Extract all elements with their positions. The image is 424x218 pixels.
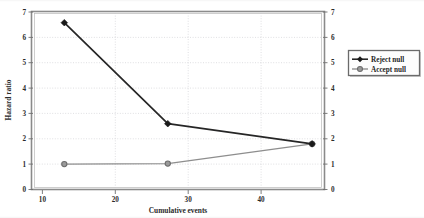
legend-label-accept-null: Accept null [371,66,406,74]
circle-marker-icon [358,67,363,72]
vertical-gridlines [115,13,261,188]
tick-label-x-10: 10 [39,196,47,204]
tick-label-left-1: 1 [22,161,26,169]
tick-label-right-6: 6 [331,34,335,42]
scan-grain-overlay [0,0,424,218]
tick-label-left-2: 2 [22,135,26,143]
y-axis-title: Hazard ratio [4,79,13,120]
horizontal-gridlines [34,37,321,164]
right-axis-tick-labels: 0 1 2 3 4 5 6 7 [331,9,335,195]
tick-label-right-5: 5 [331,59,335,67]
tick-label-left-7: 7 [22,9,26,17]
tick-label-left-3: 3 [22,110,26,118]
left-axis-tick-labels: 0 1 2 3 4 5 6 7 [22,9,26,195]
tick-label-x-40: 40 [258,196,266,204]
tick-label-left-5: 5 [22,59,26,67]
legend-label-reject-null: Reject null [371,56,404,64]
x-axis-tick-labels: 10 20 30 40 [39,196,265,204]
plot-border-inner [35,14,322,188]
reject-null-point-3 [309,141,316,148]
legend: Reject null Accept null [349,51,422,78]
tick-label-left-6: 6 [22,34,26,42]
tick-label-right-0: 0 [331,186,335,194]
tick-label-x-30: 30 [185,196,193,204]
tick-label-right-2: 2 [331,135,335,143]
accept-null-point-1 [62,162,67,167]
hazard-ratio-line-chart: 0 1 2 3 4 5 6 7 0 1 2 3 4 5 [0,0,424,218]
tick-label-right-7: 7 [331,9,335,17]
tick-label-left-4: 4 [22,85,26,93]
tick-label-left-0: 0 [22,186,26,194]
tick-label-x-20: 20 [112,196,120,204]
tick-label-right-3: 3 [331,110,335,118]
chart-canvas: 0 1 2 3 4 5 6 7 0 1 2 3 4 5 [0,0,424,218]
tick-label-right-1: 1 [331,161,335,169]
x-axis-ticks [42,190,261,194]
accept-null-point-2 [165,161,170,166]
tick-label-right-4: 4 [331,85,335,93]
x-axis-title: Cumulative events [149,206,208,215]
